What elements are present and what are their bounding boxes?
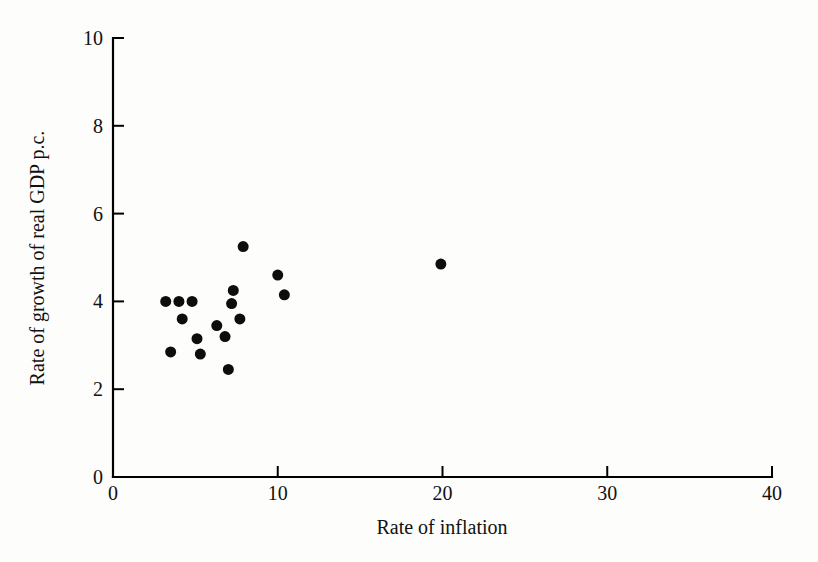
y-axis-title: Rate of growth of real GDP p.c.	[26, 131, 49, 386]
scatter-plot-figure: 010203040 0246810 Rate of inflation Rate…	[0, 0, 818, 562]
data-point	[160, 296, 171, 307]
x-tick-label: 0	[108, 482, 118, 504]
data-point	[173, 296, 184, 307]
data-point	[177, 313, 188, 324]
y-tick-label: 8	[93, 115, 103, 137]
y-tick-label: 10	[83, 27, 103, 49]
y-tick-label: 0	[93, 466, 103, 488]
x-axis-ticks: 010203040	[108, 466, 782, 504]
y-tick-label: 2	[93, 378, 103, 400]
x-tick-label: 20	[433, 482, 453, 504]
data-point	[223, 364, 234, 375]
x-tick-label: 30	[597, 482, 617, 504]
data-point	[220, 331, 231, 342]
data-point	[165, 346, 176, 357]
y-axis-ticks: 0246810	[83, 27, 124, 488]
data-point	[238, 241, 249, 252]
data-point	[192, 333, 203, 344]
data-points-layer	[160, 241, 446, 375]
y-tick-label: 4	[93, 290, 103, 312]
data-point	[211, 320, 222, 331]
x-tick-label: 10	[268, 482, 288, 504]
data-point	[234, 313, 245, 324]
data-point	[272, 270, 283, 281]
x-tick-label: 40	[762, 482, 782, 504]
data-point	[435, 259, 446, 270]
data-point	[195, 349, 206, 360]
x-axis-title: Rate of inflation	[376, 516, 507, 538]
plot-canvas: 010203040 0246810 Rate of inflation Rate…	[0, 0, 818, 562]
data-point	[226, 298, 237, 309]
y-tick-label: 6	[93, 203, 103, 225]
data-point	[279, 289, 290, 300]
data-point	[228, 285, 239, 296]
data-point	[187, 296, 198, 307]
